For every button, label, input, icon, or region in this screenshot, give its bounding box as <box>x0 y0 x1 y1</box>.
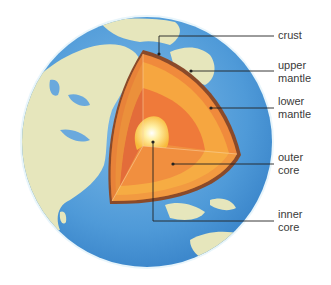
label-inner-core-line1: inner <box>278 208 302 221</box>
label-lower-mantle-line2: mantle <box>278 108 311 121</box>
label-upper-mantle-line2: mantle <box>278 72 311 85</box>
label-lower-mantle: lower mantle <box>278 95 311 121</box>
label-upper-mantle: upper mantle <box>278 59 311 85</box>
label-inner-core: inner core <box>278 208 302 234</box>
label-inner-core-line2: core <box>278 221 302 234</box>
label-lower-mantle-line1: lower <box>278 95 311 108</box>
label-upper-mantle-line1: upper <box>278 59 311 72</box>
label-outer-core-line1: outer <box>278 151 303 164</box>
earth-structure-diagram <box>0 0 331 285</box>
label-crust: crust <box>278 29 302 42</box>
label-outer-core-line2: core <box>278 164 303 177</box>
label-outer-core: outer core <box>278 151 303 177</box>
label-crust-line1: crust <box>278 29 302 42</box>
